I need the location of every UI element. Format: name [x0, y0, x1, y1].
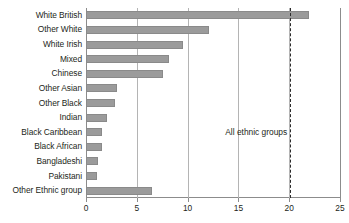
tick-mark-5	[137, 198, 138, 202]
tick-mark-0	[86, 198, 87, 202]
plot-frame-right-border	[340, 8, 341, 198]
tick-mark-15	[238, 198, 239, 202]
tick-mark-10	[188, 198, 189, 202]
category-label: Mixed	[0, 55, 82, 64]
tick-mark-20	[289, 198, 290, 202]
bar	[86, 55, 169, 63]
bar	[86, 143, 102, 151]
category-label: White British	[0, 11, 82, 20]
bar	[86, 41, 183, 49]
tick-mark-25	[340, 198, 341, 202]
x-tick-label: 0	[84, 203, 89, 213]
bar	[86, 187, 152, 195]
x-tick-label: 5	[134, 203, 139, 213]
category-label: White Irish	[0, 40, 82, 49]
bar	[86, 84, 117, 92]
bar	[86, 70, 163, 78]
category-label: Other Asian	[0, 84, 82, 93]
category-label: Pakistani	[0, 172, 82, 181]
category-label: Other Ethnic group	[0, 186, 82, 195]
category-label: Indian	[0, 113, 82, 122]
category-label: Bangladeshi	[0, 157, 82, 166]
bar	[86, 128, 102, 136]
bar	[86, 99, 115, 107]
bar	[86, 157, 98, 165]
bar	[86, 11, 309, 19]
bar-chart: White BritishOther WhiteWhite IrishMixed…	[0, 0, 349, 223]
category-label: Chinese	[0, 69, 82, 78]
x-tick-label: 25	[335, 203, 344, 213]
category-label: Other Black	[0, 99, 82, 108]
category-label: Black Caribbean	[0, 128, 82, 137]
x-tick-label: 15	[234, 203, 243, 213]
x-tick-label: 20	[285, 203, 294, 213]
category-label: Black African	[0, 142, 82, 151]
plot-area	[86, 8, 340, 198]
reference-line-label: All ethnic groups	[225, 127, 290, 137]
bar	[86, 114, 107, 122]
x-tick-label: 10	[183, 203, 192, 213]
bar	[86, 26, 209, 34]
category-label: Other White	[0, 25, 82, 34]
bar	[86, 172, 97, 180]
category-axis: White BritishOther WhiteWhite IrishMixed…	[0, 0, 82, 198]
reference-line-all-ethnic-groups	[290, 8, 291, 198]
